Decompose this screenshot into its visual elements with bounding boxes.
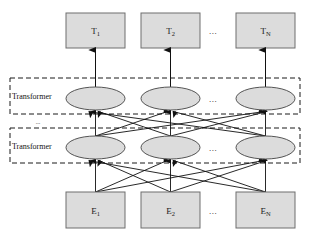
transformer-lower-units [66,136,295,159]
transformer-lower-label: Transformer [12,142,52,151]
stack-depth-ellipsis: ... [36,119,41,125]
lower-to-upper-full-connections [91,112,266,136]
transformer-to-output-arrows [96,50,266,87]
input-embedding-label-e2: E2 [166,206,175,216]
input-row-ellipsis: ... [209,206,217,216]
transformer-unit [236,136,295,159]
input-embedding-label-e1: E1 [91,206,100,216]
transformer-upper-units [66,87,295,110]
transformer-unit [66,136,125,159]
transformer-upper-ellipsis: ... [209,94,217,104]
transformer-unit [236,87,295,110]
transformer-unit [66,87,125,110]
output-row-ellipsis: ... [209,26,217,36]
transformer-unit [141,87,200,110]
output-token-label-t2: T2 [166,26,175,36]
transformer-unit [141,136,200,159]
transformer-upper-label: Transformer [12,92,52,101]
input-to-lower-full-connections [91,161,266,192]
bert-architecture-figure: T1 T2 TN ... Transformer ... Transformer… [0,0,310,238]
transformer-lower-ellipsis: ... [209,143,217,153]
output-token-label-t1: T1 [91,26,100,36]
output-token-label-tn: TN [260,26,270,36]
diagram-canvas [0,0,310,238]
input-embedding-label-en: EN [260,206,270,216]
